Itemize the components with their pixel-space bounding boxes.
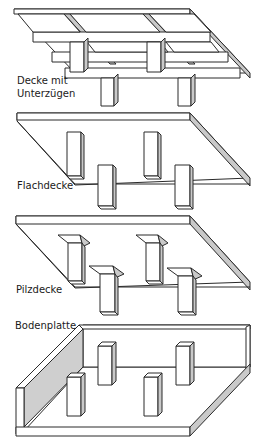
- slab-underside: [17, 113, 250, 185]
- column: [101, 74, 118, 106]
- column: [144, 373, 162, 416]
- column: [147, 38, 165, 72]
- panel-pilzdecke: Pilzdecke: [16, 216, 250, 315]
- label-pilzdecke: Pilzdecke: [16, 284, 62, 295]
- slab-types-diagram: Decke mit Unterzügen Fl: [0, 0, 262, 445]
- label-decke-mit-unterzuegen-line2: Unterzügen: [17, 88, 75, 99]
- column: [70, 38, 88, 72]
- label-decke-mit-unterzuegen-line1: Decke mit: [17, 75, 68, 86]
- column: [67, 373, 85, 416]
- beam-transverse: [33, 32, 210, 42]
- label-bodenplatte: Bodenplatte: [15, 320, 76, 331]
- column: [175, 165, 193, 209]
- column: [98, 342, 116, 385]
- label-flachdecke: Flachdecke: [17, 180, 73, 191]
- back-wall-top: [79, 325, 250, 329]
- panel-flachdecke: Flachdecke: [17, 113, 250, 209]
- floor-slab-front: [16, 427, 190, 436]
- column: [98, 165, 116, 209]
- column: [144, 132, 161, 179]
- column: [178, 74, 195, 106]
- slab-panel: [166, 42, 219, 52]
- panel-decke-mit-unterzuegen: Decke mit Unterzügen: [14, 9, 250, 106]
- panel-bodenplatte: Bodenplatte: [15, 320, 250, 436]
- slab-back-edge: [16, 216, 190, 224]
- slab-back-edge: [14, 9, 190, 14]
- column: [67, 132, 84, 179]
- column: [176, 342, 194, 385]
- right-wall-edge: [246, 325, 250, 369]
- slab-back-edge: [17, 113, 190, 120]
